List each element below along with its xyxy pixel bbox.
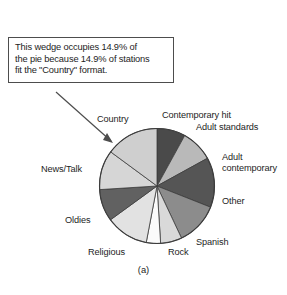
pie-slice-label: Other <box>222 196 244 207</box>
callout-annotation-box: This wedge occupies 14.9% of the pie bec… <box>8 37 174 83</box>
callout-line-1: This wedge occupies 14.9% of <box>15 42 167 54</box>
pie-slice-label: Contemporary hit <box>162 110 231 121</box>
callout-line-2: the pie because 14.9% of stations <box>15 54 167 66</box>
pie-slice-label: Country <box>97 114 128 125</box>
pie-slice-label: Spanish <box>196 237 229 248</box>
pie-slice-label: Rock <box>168 247 189 258</box>
pie-slice-label: Adult standards <box>196 122 258 133</box>
pie-slice-label: contemporary <box>222 163 277 174</box>
figure-caption: (a) <box>0 264 287 275</box>
pie-slice-label: Adult <box>222 152 242 163</box>
callout-line-3: fit the "Country" format. <box>15 65 167 77</box>
pie-chart-graphic <box>98 127 216 245</box>
pie-slice-label: Oldies <box>65 215 90 226</box>
pie-chart-figure: This wedge occupies 14.9% of the pie bec… <box>0 0 287 295</box>
pie-slice-label: Religious <box>88 247 125 258</box>
pie-slice-label: News/Talk <box>41 164 82 175</box>
